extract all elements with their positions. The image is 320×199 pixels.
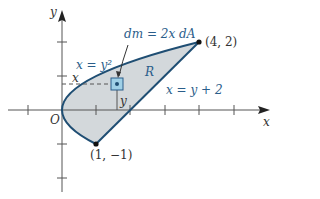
x-axis-label: x xyxy=(263,116,270,128)
point-label-4-2: (4, 2) xyxy=(205,36,237,48)
region-label: R xyxy=(145,66,154,78)
origin-label: O xyxy=(50,114,60,126)
element-center-dot xyxy=(115,82,119,86)
line-label: x = y + 2 xyxy=(166,84,223,96)
point-1-neg1 xyxy=(93,141,98,146)
element-y-label: y xyxy=(120,95,127,107)
element-x-label: x xyxy=(72,72,79,84)
point-label-1-neg1: (1, −1) xyxy=(90,149,132,161)
mass-element-label: dm = 2x dA xyxy=(124,28,195,40)
point-4-2 xyxy=(196,39,201,44)
parabola-label: x = y² xyxy=(76,59,112,71)
y-axis-label: y xyxy=(50,6,57,18)
